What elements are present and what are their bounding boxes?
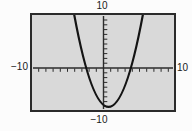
graph-plot (0, 0, 192, 131)
y-max-tick-label: 10 (91, 0, 113, 12)
y-min-tick-label: −10 (87, 114, 111, 126)
x-min-tick-label: −10 (4, 61, 28, 73)
x-max-tick-label: 10 (177, 62, 192, 74)
calculator-graph-screen: 10 −10 −10 10 (0, 0, 192, 131)
